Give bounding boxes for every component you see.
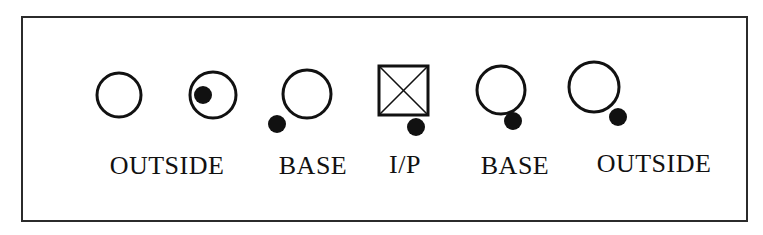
label-base-right: BASE bbox=[481, 153, 549, 179]
label-outside-right: OUTSIDE bbox=[597, 151, 712, 177]
node-3-dot-icon bbox=[268, 115, 286, 133]
label-base-left: BASE bbox=[279, 153, 347, 179]
symbol-canvas bbox=[0, 0, 763, 235]
figure-root: OUTSIDE BASE I/P BASE OUTSIDE bbox=[0, 0, 763, 235]
label-ip: I/P bbox=[389, 152, 421, 178]
node-5-dot-icon bbox=[504, 112, 522, 130]
node-1-circle bbox=[97, 73, 141, 117]
node-6-circle bbox=[569, 62, 619, 112]
node-6-dot-icon bbox=[609, 108, 627, 126]
node-2-dot-icon bbox=[194, 86, 212, 104]
label-outside-left: OUTSIDE bbox=[110, 153, 225, 179]
node-4-dot-icon bbox=[407, 118, 425, 136]
node-5-circle bbox=[477, 66, 525, 114]
node-3-circle bbox=[283, 70, 331, 118]
